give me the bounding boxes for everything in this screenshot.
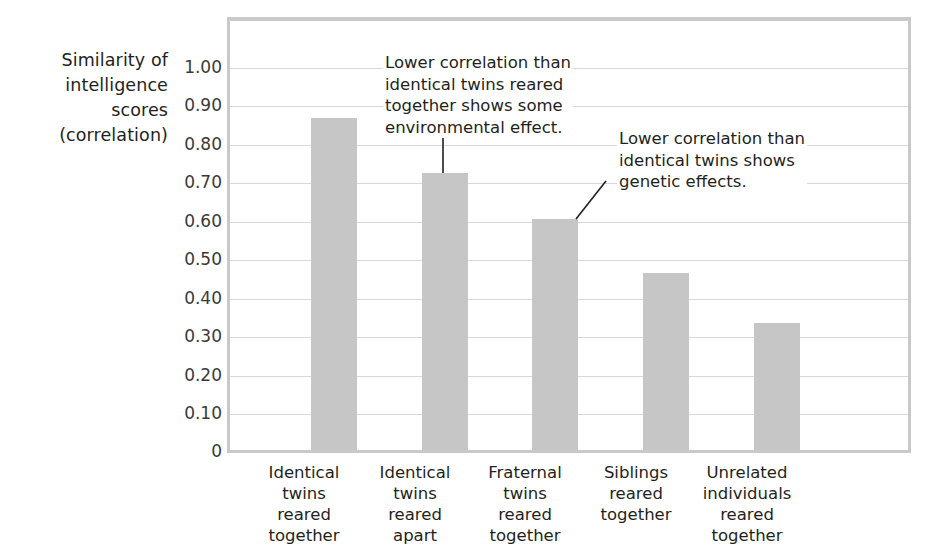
x-tick-4-line-4: together (682, 525, 812, 546)
x-tick-label-unrelated-individuals-reared-together: Unrelated individuals reared together (682, 462, 812, 546)
annotation-1-line-2: identical twins reared (385, 74, 571, 96)
x-tick-4-line-3: reared (682, 504, 812, 525)
leader-line-annotation-2 (576, 181, 606, 219)
annotation-1-line-3: together shows some (385, 95, 571, 117)
x-tick-2-line-4: together (460, 525, 590, 546)
annotation-environmental-effect: Lower correlation than identical twins r… (383, 52, 573, 138)
annotation-1-line-1: Lower correlation than (385, 52, 571, 74)
annotation-1-line-4: environmental effect. (385, 117, 571, 139)
annotation-2-line-1: Lower correlation than (619, 128, 805, 150)
annotation-2-line-3: genetic effects. (619, 171, 805, 193)
x-tick-4-line-1: Unrelated (682, 462, 812, 483)
bar-chart-figure: Similarity of intelligence scores (corre… (0, 0, 927, 560)
annotation-genetic-effects: Lower correlation than identical twins s… (617, 128, 807, 193)
x-tick-4-line-2: individuals (682, 483, 812, 504)
annotation-2-line-2: identical twins shows (619, 150, 805, 172)
